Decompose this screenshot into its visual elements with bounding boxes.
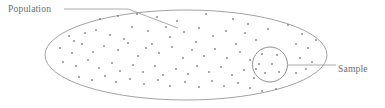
diagram-canvas: Population Sample bbox=[0, 0, 385, 108]
data-point bbox=[156, 16, 158, 18]
data-point bbox=[311, 61, 313, 63]
data-point bbox=[158, 52, 160, 54]
data-point bbox=[244, 32, 246, 34]
data-point bbox=[205, 13, 207, 15]
data-point bbox=[142, 71, 144, 73]
data-point bbox=[127, 42, 129, 44]
data-point bbox=[196, 65, 198, 67]
data-point bbox=[132, 64, 134, 66]
data-point bbox=[203, 55, 205, 57]
data-point bbox=[103, 45, 105, 47]
data-point bbox=[73, 40, 75, 42]
data-point bbox=[278, 71, 280, 73]
sample-circle-boundary bbox=[253, 47, 288, 82]
data-point bbox=[235, 43, 237, 45]
data-point bbox=[231, 74, 233, 76]
data-point bbox=[264, 72, 266, 74]
data-point bbox=[171, 46, 173, 48]
data-point bbox=[84, 32, 86, 34]
data-point bbox=[223, 85, 225, 87]
data-point bbox=[62, 61, 64, 63]
data-point bbox=[119, 70, 121, 72]
data-point bbox=[214, 48, 216, 50]
sample-dot-group bbox=[255, 53, 280, 74]
data-point bbox=[169, 36, 171, 38]
data-point bbox=[232, 18, 234, 20]
data-point bbox=[295, 72, 297, 74]
data-point bbox=[287, 24, 289, 26]
data-point bbox=[315, 39, 317, 41]
data-point bbox=[261, 90, 263, 92]
data-point bbox=[129, 78, 131, 80]
data-point bbox=[184, 81, 186, 83]
data-point bbox=[255, 39, 257, 41]
data-point bbox=[258, 63, 260, 65]
data-point bbox=[212, 35, 214, 37]
data-point bbox=[99, 18, 101, 20]
data-point bbox=[151, 43, 153, 45]
data-point bbox=[187, 73, 189, 75]
data-point bbox=[165, 26, 167, 28]
data-point bbox=[78, 76, 80, 78]
data-point bbox=[87, 59, 89, 61]
data-point bbox=[261, 53, 263, 55]
data-point bbox=[136, 13, 138, 15]
data-point bbox=[162, 74, 164, 76]
data-point bbox=[195, 41, 197, 43]
data-point bbox=[226, 57, 228, 59]
data-point bbox=[104, 75, 106, 77]
data-point bbox=[115, 81, 117, 83]
data-point bbox=[143, 83, 145, 85]
data-point bbox=[208, 71, 210, 73]
data-point bbox=[211, 80, 213, 82]
data-point bbox=[249, 87, 251, 89]
data-point bbox=[68, 35, 70, 37]
data-point bbox=[92, 51, 94, 53]
data-point bbox=[276, 54, 278, 56]
data-point bbox=[131, 26, 133, 28]
data-point bbox=[295, 43, 297, 45]
data-point bbox=[237, 82, 239, 84]
data-point bbox=[111, 62, 113, 64]
data-point bbox=[154, 65, 156, 67]
data-point bbox=[175, 68, 177, 70]
data-point bbox=[91, 79, 93, 81]
data-point bbox=[301, 33, 303, 35]
data-point bbox=[183, 31, 185, 33]
population-sample-figure: Population Sample bbox=[0, 0, 385, 108]
data-point bbox=[169, 85, 171, 87]
data-point bbox=[239, 51, 241, 53]
data-point bbox=[253, 77, 255, 79]
population-label: Population bbox=[8, 3, 51, 14]
data-point bbox=[117, 49, 119, 51]
data-point bbox=[117, 15, 119, 17]
data-point bbox=[307, 47, 309, 49]
data-point bbox=[305, 68, 307, 70]
data-point bbox=[220, 66, 222, 68]
data-point bbox=[243, 69, 245, 71]
data-point bbox=[182, 57, 184, 59]
data-point bbox=[75, 65, 77, 67]
data-point bbox=[145, 47, 147, 49]
data-point bbox=[123, 38, 125, 40]
data-point bbox=[275, 88, 277, 90]
data-point bbox=[71, 52, 73, 54]
data-point bbox=[198, 27, 200, 29]
data-point bbox=[81, 43, 83, 45]
data-point bbox=[98, 67, 100, 69]
data-point bbox=[255, 68, 257, 70]
sample-label: Sample bbox=[338, 63, 368, 74]
data-point bbox=[59, 47, 61, 49]
data-point bbox=[247, 23, 249, 25]
data-point bbox=[299, 57, 301, 59]
data-point bbox=[267, 28, 269, 30]
data-point bbox=[249, 59, 251, 61]
data-point bbox=[191, 49, 193, 51]
data-point bbox=[198, 86, 200, 88]
data-point bbox=[225, 30, 227, 32]
data-point bbox=[176, 20, 178, 22]
data-point bbox=[147, 30, 149, 32]
data-point bbox=[95, 29, 97, 31]
data-point bbox=[271, 63, 273, 65]
data-point bbox=[137, 55, 139, 57]
